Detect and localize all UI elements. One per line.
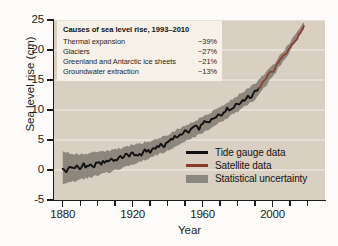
legend-item-uncertainty: Statistical uncertainty [186, 172, 307, 185]
y-axis-tick [47, 199, 53, 200]
y-axis-tick-label: -5 [34, 193, 44, 205]
y-axis-line [53, 19, 54, 201]
inset-row: Glaciers ~27% [63, 47, 217, 57]
inset-row: Thermal expansion ~39% [63, 37, 217, 47]
x-axis-tick-minor [254, 201, 255, 206]
legend-item-tide-gauge: Tide gauge data [186, 146, 307, 159]
chart-legend: Tide gauge data Satellite data Statistic… [186, 146, 307, 185]
x-axis-tick-minor [219, 201, 220, 206]
y-axis-tick [47, 139, 53, 140]
y-axis-tick [47, 79, 53, 80]
x-axis-tick-minor [307, 201, 308, 206]
inset-title: Causes of sea level rise, 1993–2010 [63, 25, 217, 34]
y-axis-tick-label: 5 [38, 133, 44, 145]
legend-swatch-band-icon [186, 175, 208, 183]
legend-item-satellite: Satellite data [186, 159, 307, 172]
x-axis-tick-minor [97, 201, 98, 206]
x-axis-line [53, 200, 326, 201]
y-axis-tick-label: 0 [38, 163, 44, 175]
x-axis-tick-minor [184, 201, 185, 206]
x-axis-tick-major [202, 201, 203, 207]
x-axis-tick-label: 1920 [120, 208, 145, 220]
x-axis-tick-minor [149, 201, 150, 206]
x-axis-tick-label: 2000 [260, 208, 285, 220]
x-axis-tick-major [272, 201, 273, 207]
legend-label: Tide gauge data [215, 147, 285, 158]
x-axis-tick-label: 1880 [50, 208, 75, 220]
causes-inset-panel: Causes of sea level rise, 1993–2010 Ther… [57, 21, 222, 81]
inset-cause-value: ~13% [198, 67, 217, 77]
x-axis-tick-major [62, 201, 63, 207]
y-axis-tick [47, 49, 53, 50]
inset-cause-value: ~39% [198, 37, 217, 47]
x-axis-tick-minor [289, 201, 290, 206]
x-axis-tick-minor [80, 201, 81, 206]
y-axis-tick [47, 169, 53, 170]
x-axis-tick-label: 1960 [190, 208, 215, 220]
sea-level-rise-chart: Causes of sea level rise, 1993–2010 Ther… [0, 0, 338, 246]
y-axis-tick [47, 109, 53, 110]
legend-swatch-line-icon [186, 164, 208, 167]
inset-cause-value: ~21% [198, 57, 217, 67]
inset-cause-value: ~27% [198, 47, 217, 57]
inset-row: Groundwater extraction ~13% [63, 67, 217, 77]
x-axis-tick-minor [114, 201, 115, 206]
inset-cause-label: Greenland and Antarctic ice sheets [63, 57, 182, 67]
x-axis-tick-minor [167, 201, 168, 206]
y-axis-title: Sea level rise (cm) [24, 14, 36, 154]
x-axis-tick-major [132, 201, 133, 207]
inset-cause-label: Groundwater extraction [63, 67, 145, 77]
inset-cause-label: Thermal expansion [63, 37, 131, 47]
inset-row: Greenland and Antarctic ice sheets ~21% [63, 57, 217, 67]
y-axis-tick [47, 19, 53, 20]
legend-label: Satellite data [215, 160, 271, 171]
x-axis-title: Year [54, 224, 325, 236]
x-axis-tick-minor [237, 201, 238, 206]
inset-cause-label: Glaciers [63, 47, 96, 57]
legend-label: Statistical uncertainty [215, 173, 307, 184]
legend-swatch-line-icon [186, 151, 208, 154]
